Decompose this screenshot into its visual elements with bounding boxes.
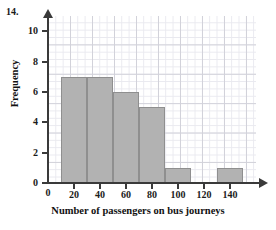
histogram-bar [139,107,165,183]
histogram-figure: 14. 0246810 020406080100120140 Frequency… [0,0,276,230]
question-number: 14. [6,6,19,17]
y-axis-tick-label: 2 [12,147,38,158]
y-axis-tick [42,182,48,184]
x-axis-title: Number of passengers on bus journeys [0,205,276,216]
x-axis-tick-label: 80 [138,189,166,200]
x-axis-tick-label: 120 [190,189,218,200]
y-axis-tick [42,61,48,63]
x-axis-tick-label: 60 [112,189,140,200]
x-axis-tick-label: 0 [34,187,62,198]
y-axis-title: Frequency [9,29,20,139]
histogram-bar [113,92,139,183]
y-axis-tick [42,91,48,93]
x-axis-tick-label: 140 [216,189,244,200]
histogram-bar [217,168,243,183]
y-axis-tick [42,152,48,154]
y-axis-arrow-icon [43,9,53,18]
bars-layer [48,16,256,183]
plot-area [48,16,256,183]
x-axis-tick-label: 40 [86,189,114,200]
x-axis-arrow-icon [259,178,268,188]
x-axis-tick-label: 20 [60,189,88,200]
histogram-bar [61,77,87,183]
histogram-bar [87,77,113,183]
x-axis-tick-label: 100 [164,189,192,200]
histogram-bar [165,168,191,183]
y-axis-tick [42,121,48,123]
y-axis-line [47,16,49,184]
y-axis-tick [42,30,48,32]
